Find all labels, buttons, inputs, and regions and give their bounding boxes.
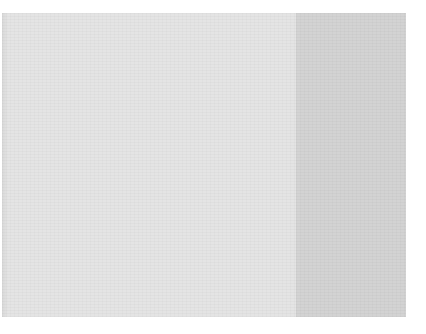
- dark-gray-panel: [296, 13, 406, 317]
- image-canvas: [0, 0, 426, 334]
- light-gray-panel: [2, 13, 296, 317]
- left-edge-shade: [2, 13, 8, 317]
